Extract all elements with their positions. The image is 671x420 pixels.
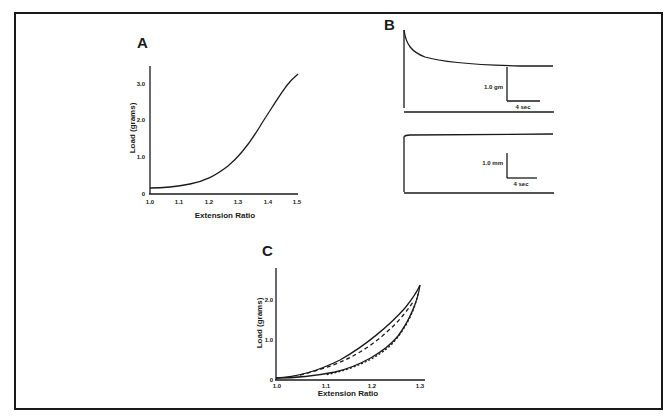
panel-b-extension-trace: 1.0 mm 4 sec [404, 134, 554, 193]
panel-b: B 1.0 gm 4 sec 1.0 mm 4 sec [384, 16, 554, 193]
panel-b-top-scale-v-label: 1.0 gm [484, 84, 503, 90]
svg-text:1.4: 1.4 [264, 199, 273, 205]
panel-c-label: C [262, 242, 273, 259]
panel-b-load-trace: 1.0 gm 4 sec [404, 30, 554, 112]
panel-a-label: A [137, 34, 148, 51]
svg-text:3.0: 3.0 [137, 81, 146, 87]
figure-canvas: A 0 1.0 2.0 3.0 1.0 1.1 1.2 1.3 1.4 1.5 … [0, 0, 671, 420]
panel-a-x-label: Extension Ratio [195, 211, 256, 220]
panel-b-bottom-scale-h-label: 4 sec [513, 181, 529, 187]
svg-text:1.1: 1.1 [175, 199, 184, 205]
panel-c-unloading-solid [276, 285, 420, 378]
panel-c-y-label: Load (grams) [255, 297, 264, 348]
panel-c: C 0 1.0 2.0 1.0 1.1 1.2 1.3 Extension Ra… [255, 242, 425, 398]
svg-text:1.5: 1.5 [293, 199, 302, 205]
panel-a-x-ticks: 1.0 1.1 1.2 1.3 1.4 1.5 [146, 199, 302, 205]
panel-a-y-label: Load (grams) [128, 102, 137, 153]
panel-c-loading-solid [276, 285, 420, 378]
panel-c-x-label: Extension Ratio [318, 389, 379, 398]
svg-text:2.0: 2.0 [265, 297, 274, 303]
panel-a: A 0 1.0 2.0 3.0 1.0 1.1 1.2 1.3 1.4 1.5 … [128, 34, 302, 220]
svg-text:1.0: 1.0 [146, 199, 155, 205]
svg-text:1.3: 1.3 [234, 199, 243, 205]
panel-a-load-curve [150, 74, 298, 188]
svg-text:1.3: 1.3 [416, 383, 425, 389]
panel-c-unloading-dotted [325, 294, 418, 375]
svg-text:1.0: 1.0 [137, 154, 146, 160]
svg-text:1.0: 1.0 [265, 337, 274, 343]
panel-b-label: B [384, 16, 395, 33]
panel-b-top-scale-h-label: 4 sec [515, 104, 531, 110]
panel-a-y-ticks: 0 1.0 2.0 3.0 [137, 81, 146, 197]
panel-c-y-ticks: 0 1.0 2.0 [265, 297, 274, 383]
svg-text:0: 0 [142, 191, 146, 197]
figure-border [15, 13, 662, 409]
panel-b-bottom-scale-v-label: 1.0 mm [482, 160, 503, 166]
svg-text:1.0: 1.0 [273, 383, 282, 389]
svg-text:1.2: 1.2 [205, 199, 214, 205]
svg-text:2.0: 2.0 [137, 117, 146, 123]
